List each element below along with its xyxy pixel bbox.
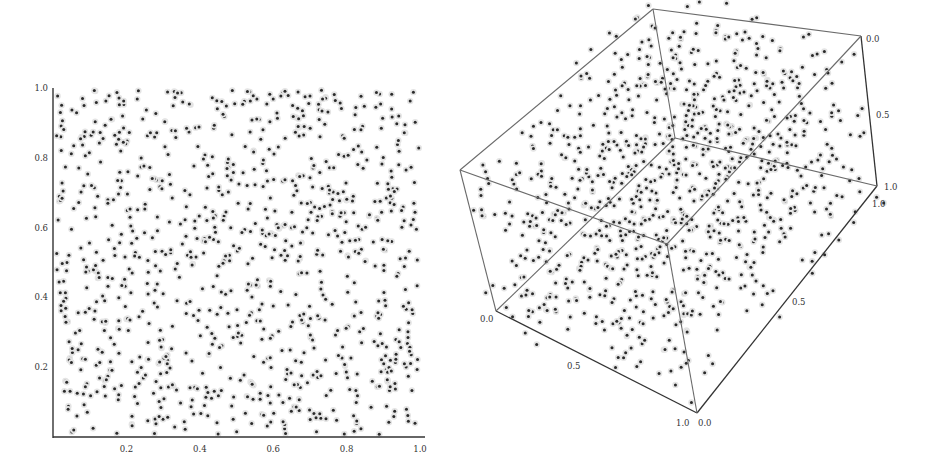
tick-label: 0.4 bbox=[34, 292, 48, 302]
scatter-plot-3d: 0.00.51.00.00.51.01.00.50.0 bbox=[460, 0, 898, 428]
tick-label: 0.5 bbox=[876, 110, 890, 120]
tick-label: 0.0 bbox=[698, 418, 712, 428]
points-3d bbox=[470, 0, 886, 406]
tick-label: 1.0 bbox=[676, 418, 690, 428]
figure-canvas: 0.20.40.60.81.0 0.20.40.60.81.0 0.00.51.… bbox=[0, 0, 927, 472]
scatter-plot-2d: 0.20.40.60.81.0 0.20.40.60.81.0 bbox=[34, 83, 426, 454]
tick-label: 0.2 bbox=[34, 362, 48, 372]
tick-label: 0.0 bbox=[866, 34, 880, 44]
tick-label: 0.8 bbox=[34, 153, 48, 163]
tick-label: 1.0 bbox=[413, 444, 427, 454]
x-tick-labels: 0.20.40.60.81.0 bbox=[120, 444, 427, 454]
tick-label: 0.8 bbox=[340, 444, 354, 454]
tick-label: 0.6 bbox=[266, 444, 280, 454]
tick-label: 0.0 bbox=[480, 314, 494, 324]
points-2d bbox=[53, 87, 421, 437]
tick-label: 0.6 bbox=[34, 223, 48, 233]
tick-label: 0.5 bbox=[792, 297, 806, 307]
tick-label: 0.2 bbox=[120, 444, 134, 454]
y-tick-labels: 0.20.40.60.81.0 bbox=[34, 83, 48, 372]
tick-label: 1.0 bbox=[884, 182, 898, 192]
tick-label: 0.5 bbox=[567, 361, 581, 371]
tick-label: 0.4 bbox=[193, 444, 207, 454]
tick-label: 1.0 bbox=[872, 199, 886, 209]
tick-label: 1.0 bbox=[34, 83, 48, 93]
